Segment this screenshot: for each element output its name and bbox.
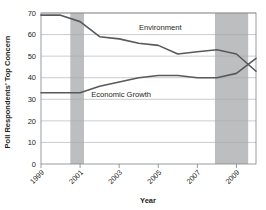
y-tick-label-50: 50 [28, 52, 36, 61]
chart-container: 010203040506070 199920012003200520072009… [0, 0, 266, 210]
y-tick-label-40: 40 [28, 73, 36, 82]
y-tick-label-70: 70 [28, 9, 36, 18]
x-tick-label-2009: 2009 [224, 168, 242, 186]
y-axis-tick-labels: 010203040506070 [28, 9, 36, 169]
recession-band-2001 [70, 13, 84, 164]
environment-label: Environment [139, 23, 183, 32]
y-axis-title: Poll Respondents' Top Concern [3, 35, 12, 148]
y-tick-label-20: 20 [28, 117, 36, 126]
y-tick-label-10: 10 [28, 138, 36, 147]
x-tick-label-2007: 2007 [184, 168, 202, 186]
x-axis-title: Year [140, 196, 156, 205]
poll-concern-line-chart: 010203040506070 199920012003200520072009… [0, 0, 266, 210]
x-tick-label-2001: 2001 [67, 168, 85, 186]
x-axis-tick-labels: 199920012003200520072009 [28, 168, 241, 186]
x-tick-label-2005: 2005 [145, 168, 163, 186]
x-axis-ticks [41, 164, 236, 168]
y-tick-label-0: 0 [32, 160, 36, 169]
x-tick-label-2003: 2003 [106, 168, 124, 186]
y-tick-label-30: 30 [28, 95, 36, 104]
x-tick-label-1999: 1999 [28, 168, 46, 186]
economic-growth-label: Economic Growth [91, 90, 151, 99]
y-tick-label-60: 60 [28, 30, 36, 39]
recession-band-2008 [215, 13, 248, 164]
